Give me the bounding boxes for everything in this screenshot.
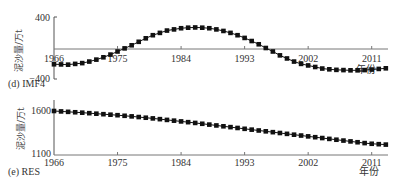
data-point-marker: [151, 116, 156, 121]
data-point-marker: [369, 67, 374, 72]
data-point-marker: [242, 127, 247, 132]
data-point-marker: [52, 109, 57, 114]
data-point-marker: [285, 132, 290, 137]
data-point-marker: [306, 63, 311, 68]
data-point-marker: [369, 141, 374, 146]
data-point-marker: [334, 137, 339, 142]
x-tick-label: 1975: [108, 157, 128, 168]
data-point-marker: [73, 62, 78, 67]
data-point-marker: [186, 120, 191, 125]
data-point-marker: [221, 124, 226, 129]
data-point-marker: [249, 127, 254, 132]
x-tick-label: 1966: [44, 157, 64, 168]
data-point-marker: [292, 59, 297, 64]
data-point-marker: [101, 55, 106, 60]
data-point-marker: [235, 126, 240, 131]
data-point-marker: [87, 111, 92, 116]
data-point-marker: [108, 112, 113, 117]
res-title: (e) RES: [8, 166, 40, 178]
data-point-marker: [172, 27, 177, 32]
data-point-marker: [264, 46, 269, 51]
data-point-marker: [165, 28, 170, 33]
data-point-marker: [235, 33, 240, 38]
data-point-marker: [292, 132, 297, 137]
x-tick-label: 2002: [298, 157, 318, 168]
data-point-marker: [376, 67, 381, 72]
data-point-marker: [143, 36, 148, 41]
data-point-marker: [158, 31, 163, 36]
data-point-marker: [66, 62, 71, 67]
data-point-marker: [334, 68, 339, 73]
data-point-marker: [320, 136, 325, 141]
data-point-marker: [80, 61, 85, 66]
data-point-marker: [285, 56, 290, 61]
data-point-marker: [228, 125, 233, 130]
data-point-marker: [143, 115, 148, 120]
res-y-label: 泥沙量/万t: [16, 107, 26, 150]
data-point-marker: [384, 66, 389, 71]
x-tick-label: 1993: [235, 53, 255, 64]
res-ymax-label: 1600: [31, 105, 51, 116]
data-point-marker: [327, 67, 332, 72]
data-point-marker: [214, 27, 219, 32]
data-point-marker: [193, 121, 198, 126]
data-point-marker: [264, 129, 269, 134]
data-point-marker: [221, 29, 226, 34]
data-point-marker: [73, 110, 78, 115]
data-point-marker: [115, 113, 120, 118]
x-tick-label: 1993: [235, 157, 255, 168]
data-point-marker: [122, 46, 127, 51]
data-point-marker: [66, 110, 71, 115]
data-point-marker: [200, 121, 205, 126]
data-point-marker: [348, 68, 353, 73]
data-point-marker: [278, 131, 283, 136]
data-point-marker: [94, 57, 99, 62]
data-point-marker: [299, 133, 304, 138]
data-point-marker: [384, 142, 389, 147]
data-point-marker: [129, 114, 134, 119]
data-point-marker: [299, 62, 304, 67]
data-point-marker: [200, 25, 205, 30]
data-point-marker: [214, 123, 219, 128]
data-point-marker: [348, 139, 353, 144]
data-point-marker: [186, 25, 191, 30]
data-point-marker: [129, 43, 134, 48]
data-point-marker: [207, 26, 212, 31]
data-point-marker: [80, 110, 85, 115]
chart-figure: 400 −400 泥沙量/万t 196619751984199320022011…: [0, 0, 399, 192]
x-tick-label: 1984: [171, 157, 191, 168]
data-point-marker: [271, 130, 276, 135]
data-point-marker: [59, 109, 64, 114]
data-point-marker: [94, 111, 99, 116]
data-point-marker: [313, 135, 318, 140]
data-point-marker: [207, 122, 212, 127]
data-point-marker: [320, 66, 325, 71]
data-point-marker: [355, 68, 360, 73]
data-point-marker: [362, 68, 367, 73]
data-point-marker: [122, 113, 127, 118]
res-markers: [52, 109, 388, 147]
res-x-label: 年份: [359, 165, 379, 177]
data-point-marker: [87, 59, 92, 64]
data-point-marker: [158, 117, 163, 122]
data-point-marker: [228, 31, 233, 36]
data-point-marker: [136, 40, 141, 45]
data-point-marker: [115, 49, 120, 54]
data-point-marker: [256, 128, 261, 133]
data-point-marker: [242, 36, 247, 41]
imf4-title: (d) IMF4: [8, 78, 45, 90]
data-point-marker: [108, 52, 113, 57]
res-panel: 1600 1100 泥沙量/万t 19661975198419932002201…: [8, 100, 388, 178]
data-point-marker: [179, 119, 184, 124]
data-point-marker: [256, 42, 261, 47]
data-point-marker: [151, 33, 156, 38]
data-point-marker: [136, 115, 141, 120]
data-point-marker: [355, 140, 360, 145]
data-point-marker: [193, 25, 198, 30]
data-point-marker: [362, 141, 367, 146]
data-point-marker: [59, 62, 64, 67]
data-point-marker: [179, 26, 184, 31]
data-point-marker: [306, 134, 311, 139]
imf4-y-label: 泥沙量/万t: [14, 29, 24, 72]
data-point-marker: [165, 118, 170, 123]
